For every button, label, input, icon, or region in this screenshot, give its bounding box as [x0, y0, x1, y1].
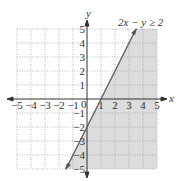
svg-text:1: 1 — [98, 99, 104, 111]
y-axis-up-arrow-icon — [85, 20, 89, 26]
y-axis-down-arrow-icon — [85, 172, 89, 178]
svg-text:5: 5 — [80, 23, 86, 35]
x-axis-label: x — [168, 92, 174, 104]
svg-text:−5: −5 — [73, 163, 85, 175]
svg-text:−2: −2 — [53, 99, 65, 111]
inequality-label: 2x − y ≥ 2 — [118, 16, 164, 28]
svg-text:4: 4 — [140, 99, 146, 111]
svg-text:−4: −4 — [73, 149, 85, 161]
inequality-graph: y x 0 2x − y ≥ 2 −5 −4 −3 −2 −1 1 2 3 4 … — [0, 0, 179, 181]
svg-text:2: 2 — [112, 99, 118, 111]
svg-text:3: 3 — [80, 51, 86, 63]
svg-text:4: 4 — [80, 37, 86, 49]
svg-text:−2: −2 — [73, 121, 85, 133]
svg-text:5: 5 — [154, 99, 160, 111]
svg-text:−3: −3 — [39, 99, 51, 111]
svg-text:2: 2 — [80, 65, 86, 77]
y-axis-label: y — [85, 7, 91, 19]
svg-text:−3: −3 — [73, 135, 85, 147]
svg-text:−1: −1 — [73, 107, 85, 119]
x-axis-right-arrow-icon — [161, 97, 167, 101]
svg-text:−4: −4 — [25, 99, 37, 111]
svg-text:−5: −5 — [11, 99, 23, 111]
svg-text:3: 3 — [126, 99, 132, 111]
svg-text:1: 1 — [80, 79, 86, 91]
